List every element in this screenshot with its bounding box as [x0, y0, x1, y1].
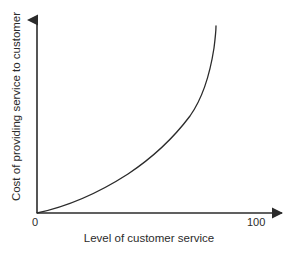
- x-axis-title: Level of customer service: [0, 232, 298, 245]
- x-axis-tick-label-0: 0: [32, 217, 38, 228]
- chart-figure: 0 100 Level of customer service Cost of …: [0, 0, 298, 259]
- y-axis-title: Cost of providing service to customer: [11, 12, 24, 201]
- x-axis-tick-label-100: 100: [247, 217, 265, 228]
- y-axis-title-container: Cost of providing service to customer: [6, 0, 28, 213]
- cost-curve: [37, 26, 216, 213]
